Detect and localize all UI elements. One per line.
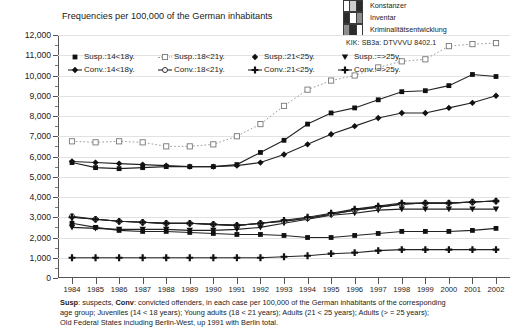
data-point-open-square: [281, 103, 286, 108]
legend-item[interactable]: Susp.:18<21y.: [158, 52, 248, 62]
y-axis-label: 6,000: [29, 152, 51, 162]
data-point-filled-cross: [210, 221, 217, 228]
data-point-filled-cross: [469, 199, 476, 206]
data-point-filled-diamond: [304, 141, 310, 147]
x-axis-tick: [378, 278, 379, 284]
data-point-open-square: [493, 41, 498, 46]
legend-item[interactable]: Susp.:14<18y.: [68, 52, 158, 62]
data-point-filled-cross: [398, 246, 405, 253]
legend-marker-shape: [68, 65, 82, 75]
x-axis-tick: [143, 278, 144, 284]
footnote-lead-susp: Susp: [60, 298, 78, 307]
data-point-filled-square: [329, 235, 334, 240]
data-point-open-square: [234, 134, 239, 139]
data-point-filled-diamond: [257, 159, 263, 165]
data-point-open-square: [258, 122, 263, 127]
data-point-filled-square: [258, 232, 263, 237]
data-point-open-square: [470, 42, 475, 47]
legend-marker-filled-diamond-icon: [248, 52, 262, 62]
legend-marker-shape: [248, 65, 262, 75]
legend-item[interactable]: Susp.:21<25y.: [248, 52, 338, 62]
x-axis-tick: [308, 278, 309, 284]
data-point-filled-cross: [351, 249, 358, 256]
data-point-filled-cross: [116, 254, 123, 261]
data-point-filled-cross: [445, 246, 452, 253]
legend-marker-filled-triangle-down-icon: [338, 52, 352, 62]
data-point-filled-diamond: [116, 160, 122, 166]
legend-item[interactable]: Susp.:=>25y.: [338, 52, 424, 62]
y-axis-label: 10,000: [25, 71, 51, 81]
data-point-filled-diamond: [375, 115, 381, 121]
y-axis-label: 12,000: [25, 30, 51, 40]
data-point-filled-square: [93, 225, 98, 230]
y-axis-label: 1,000: [29, 253, 51, 263]
data-point-open-square: [140, 140, 145, 145]
data-point-filled-square: [446, 83, 451, 88]
data-point-filled-square: [399, 229, 404, 234]
brand-line-3: Kriminalitätsentwicklung: [370, 24, 447, 36]
data-point-filled-square: [423, 229, 428, 234]
data-point-filled-square: [470, 72, 475, 77]
data-point-filled-cross: [116, 218, 123, 225]
legend-item[interactable]: Conv.:18<21y.: [158, 65, 248, 75]
legend-marker-filled-diamond-icon: [68, 65, 82, 75]
x-axis-label: 1990: [205, 285, 222, 294]
x-axis-label: 1987: [134, 285, 151, 294]
legend-item[interactable]: Conv.:14<18y.: [68, 65, 158, 75]
footnote-line-1: Susp: suspects, Conv: convicted offender…: [60, 298, 510, 308]
data-point-filled-triangle-down: [342, 54, 348, 60]
x-axis-label: 2002: [488, 285, 505, 294]
data-point-filled-square: [70, 221, 75, 226]
data-point-filled-diamond: [493, 93, 499, 99]
x-axis-label: 1986: [111, 285, 128, 294]
legend-label: Susp.:=>25y.: [354, 52, 401, 61]
data-point-filled-diamond: [252, 53, 258, 59]
legend-label: Conv.:=>25y.: [354, 65, 400, 74]
data-point-filled-cross: [281, 253, 288, 260]
data-point-filled-square: [234, 232, 239, 237]
legend-item[interactable]: Conv.:=>25y.: [338, 65, 424, 75]
data-point-filled-cross: [186, 254, 193, 261]
x-axis-label: 1993: [276, 285, 293, 294]
y-axis-label: 5,000: [29, 172, 51, 182]
data-point-open-square: [211, 142, 216, 147]
data-point-filled-cross: [252, 66, 259, 73]
legend-item[interactable]: Conv.:21<25y.: [248, 65, 338, 75]
data-point-filled-diamond: [422, 110, 428, 116]
chart-plot-area: 01,0002,0003,0004,0005,0006,0007,0008,00…: [58, 35, 510, 278]
legend-marker-shape: [248, 52, 262, 62]
data-point-filled-cross: [92, 216, 99, 223]
legend-label: Susp.:14<18y.: [84, 52, 135, 61]
data-point-open-square: [305, 87, 310, 92]
data-point-filled-square: [258, 150, 263, 155]
x-axis-tick: [213, 278, 214, 284]
data-point-open-square: [117, 139, 122, 144]
footnote-lead-conv: Conv: [115, 298, 133, 307]
x-axis-tick: [449, 278, 450, 284]
data-point-open-circle: [163, 67, 168, 72]
data-point-filled-cross: [210, 254, 217, 261]
y-axis-tick: [53, 278, 58, 279]
x-axis-tick: [425, 278, 426, 284]
data-point-filled-cross: [139, 254, 146, 261]
legend-marker-shape: [338, 52, 352, 62]
y-axis-label: 3,000: [29, 212, 51, 222]
legend-label: Susp.:18<21y.: [174, 52, 225, 61]
legend-marker-shape: [338, 65, 352, 75]
kik-logo-icon: [344, 1, 366, 37]
legend-marker-filled-cross-icon: [338, 65, 352, 75]
x-axis-tick: [331, 278, 332, 284]
x-axis-label: 1996: [346, 285, 363, 294]
legend-label: Conv.:14<18y.: [84, 65, 135, 74]
data-point-filled-cross: [469, 246, 476, 253]
data-point-filled-cross: [186, 220, 193, 227]
chart-title: Frequencies per 100,000 of the German in…: [62, 11, 272, 21]
x-axis-label: 1998: [393, 285, 410, 294]
data-point-filled-diamond: [351, 123, 357, 129]
x-axis-label: 1995: [323, 285, 340, 294]
data-point-filled-square: [305, 235, 310, 240]
x-axis-label: 1994: [299, 285, 316, 294]
x-axis-tick: [72, 278, 73, 284]
data-point-filled-cross: [422, 200, 429, 207]
x-axis-tick: [119, 278, 120, 284]
